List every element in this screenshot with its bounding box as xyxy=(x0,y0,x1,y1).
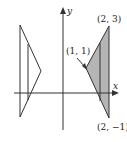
shaded-triangle xyxy=(86,26,109,118)
point-label-2-neg1: (2, −1) xyxy=(97,122,127,132)
left-triangle xyxy=(20,25,41,117)
y-axis-arrow-icon xyxy=(60,7,66,14)
point-label-2-3: (2, 3) xyxy=(97,14,121,24)
x-axis-label: x xyxy=(113,81,118,91)
diagram: y x (2, 3) (1, 1) (2, −1) xyxy=(0,0,127,142)
point-label-1-1: (1, 1) xyxy=(66,46,90,56)
y-axis-label: y xyxy=(66,6,73,16)
